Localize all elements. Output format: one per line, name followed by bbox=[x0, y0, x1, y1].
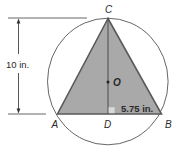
height-label: 10 in. bbox=[6, 59, 29, 70]
right-angle-marker bbox=[109, 107, 115, 113]
label-c: C bbox=[105, 4, 113, 15]
label-a: A bbox=[51, 119, 59, 130]
arrowhead-down-icon bbox=[17, 109, 21, 114]
arrowhead-up-icon bbox=[17, 19, 21, 24]
half-base-label: 5.75 in. bbox=[121, 103, 153, 114]
geometry-diagram: 10 in. C O A D B 5.75 in. bbox=[0, 0, 177, 152]
label-d: D bbox=[104, 119, 111, 130]
label-o: O bbox=[113, 77, 121, 88]
center-point-o bbox=[107, 81, 110, 84]
label-b: B bbox=[165, 119, 172, 130]
